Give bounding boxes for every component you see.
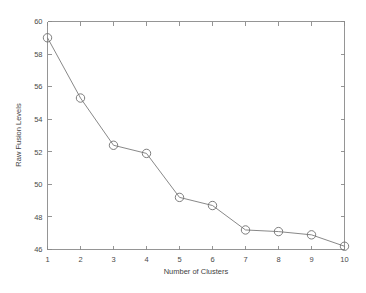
y-tick-label: 46 bbox=[34, 245, 42, 254]
x-tick-label: 8 bbox=[276, 255, 280, 264]
line-chart-plot: 12345678910 4648505254565860 Number of C… bbox=[0, 0, 366, 293]
x-axis-title: Number of Clusters bbox=[164, 267, 229, 276]
y-tick-label: 56 bbox=[34, 82, 42, 91]
y-tick-label: 60 bbox=[34, 17, 42, 26]
y-tick-label: 48 bbox=[34, 213, 42, 222]
y-tick-label: 54 bbox=[34, 115, 42, 124]
y-tick-label: 58 bbox=[34, 50, 42, 59]
x-tick-label: 9 bbox=[309, 255, 313, 264]
x-tick-label: 6 bbox=[210, 255, 214, 264]
x-tick-label: 10 bbox=[340, 255, 348, 264]
x-tick-label: 7 bbox=[243, 255, 247, 264]
x-tick-label: 5 bbox=[177, 255, 181, 264]
y-axis-title: Raw Fusion Levels bbox=[14, 103, 23, 167]
y-tick-label: 50 bbox=[34, 180, 42, 189]
x-tick-label: 4 bbox=[144, 255, 148, 264]
x-tick-label: 1 bbox=[45, 255, 49, 264]
x-tick-label: 2 bbox=[78, 255, 82, 264]
x-tick-label: 3 bbox=[111, 255, 115, 264]
y-tick-label: 52 bbox=[34, 148, 42, 157]
chart-figure: 12345678910 4648505254565860 Number of C… bbox=[0, 0, 366, 293]
